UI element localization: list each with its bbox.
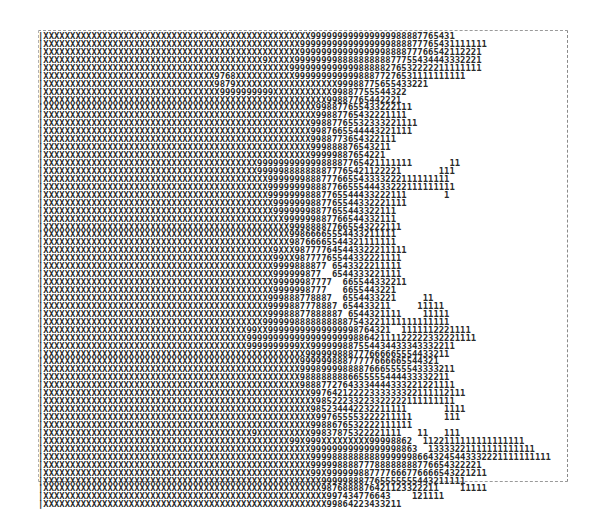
plot-row: |XXXXXXXXXXXXXXXXXXXXXXXXXXXXXXXXXXXXXXX…	[38, 501, 551, 509]
ascii-character-plot: |XXXXXXXXXXXXXXXXXXXXXXXXXXXXXXXXXXXXXXX…	[38, 33, 551, 509]
